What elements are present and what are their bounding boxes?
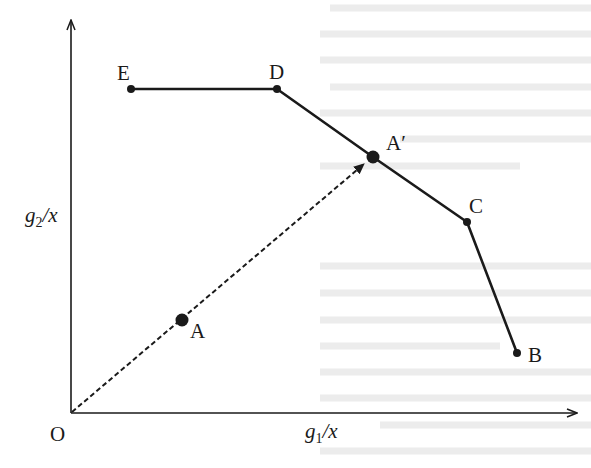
label-c: C: [469, 196, 483, 217]
diagram-canvas: E D A′ C B A O g2/x g1/x: [0, 0, 591, 468]
y-axis-label: g2/x: [25, 205, 58, 230]
label-b: B: [528, 345, 542, 366]
label-origin: O: [50, 424, 65, 445]
point-c-dot: [463, 218, 471, 226]
point-b-dot: [513, 349, 521, 357]
point-d-dot: [273, 85, 281, 93]
x-axis-label-tail: /x: [323, 419, 338, 443]
label-a-prime: A′: [386, 133, 406, 154]
point-e-dot: [127, 85, 135, 93]
y-axis-label-main: g: [25, 203, 36, 227]
x-axis-label-sub: 1: [316, 431, 323, 446]
label-e: E: [117, 63, 130, 84]
label-a: A: [190, 321, 205, 342]
y-axis-label-tail: /x: [43, 203, 58, 227]
diagram-svg: [0, 0, 591, 468]
x-axis-label-main: g: [305, 419, 316, 443]
point-a-dot: [176, 314, 189, 327]
background-bleed-text: [320, 8, 591, 451]
label-d: D: [269, 62, 284, 83]
point-a-prime-dot: [367, 151, 380, 164]
x-axis-label: g1/x: [305, 421, 338, 446]
y-axis-label-sub: 2: [36, 215, 43, 230]
